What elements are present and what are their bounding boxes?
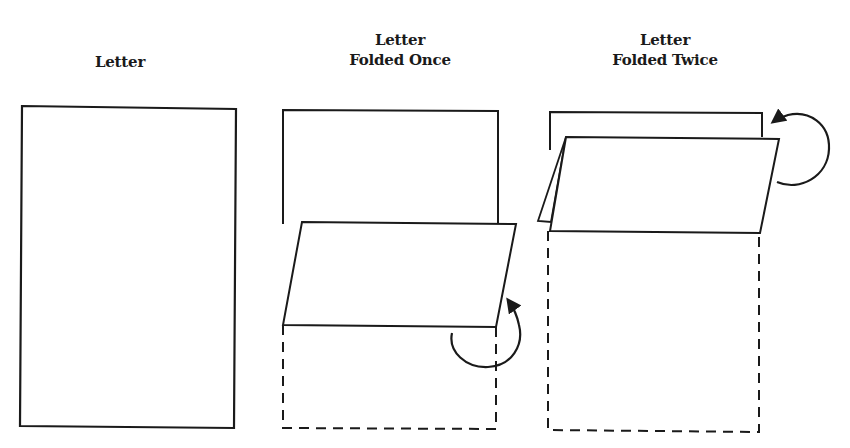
fold-diagram (0, 0, 850, 448)
fold-arrow-icon (773, 114, 829, 185)
original-position-outline (283, 325, 496, 429)
folded-flap (550, 137, 779, 233)
letter-folded-twice (538, 112, 829, 432)
folded-flap (283, 222, 516, 327)
original-position-outline (548, 231, 759, 432)
top-section (283, 110, 498, 224)
letter-folded-once (283, 110, 520, 429)
letter-sheet (20, 106, 236, 428)
